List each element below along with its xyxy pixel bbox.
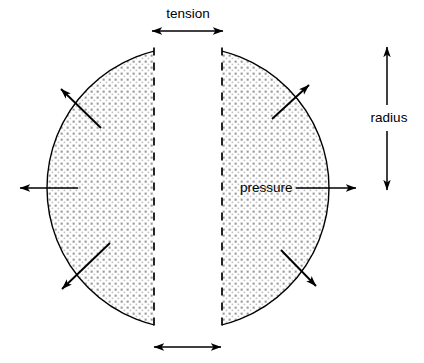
radius-label: radius [371, 110, 408, 125]
tension-label: tension [166, 6, 210, 21]
pressure-label: pressure [240, 180, 293, 195]
pressure-tension-diagram: tension radius pressure [0, 0, 424, 363]
diagram-canvas: tension radius pressure [0, 0, 424, 363]
